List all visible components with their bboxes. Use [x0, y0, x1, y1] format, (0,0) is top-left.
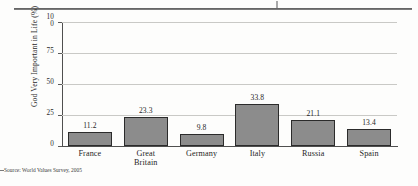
x-axis-category-label: Germany — [174, 149, 230, 158]
x-axis-category-label-line: Germany — [174, 149, 230, 158]
bar — [68, 132, 112, 146]
x-axis-category-label: GreatBritain — [118, 149, 174, 168]
gridline — [62, 115, 397, 116]
y-tick-label: 0 — [28, 141, 54, 148]
gridline — [62, 22, 397, 23]
y-tick-label-line: 50 — [28, 79, 54, 86]
bar — [291, 120, 335, 146]
figure-page: God Very Important in Life (%) 025507510… — [0, 0, 418, 186]
bar-value-label: 23.3 — [126, 106, 166, 115]
y-tick-label-line: 75 — [28, 48, 54, 55]
plot-area — [62, 22, 397, 146]
y-tick-label-line: 0 — [28, 21, 54, 28]
gridline — [62, 53, 397, 54]
x-axis-category-label-line: Italy — [229, 149, 285, 158]
bar-value-label: 33.8 — [237, 93, 277, 102]
x-axis-category-label: France — [62, 149, 118, 158]
x-axis-category-label-line: Russia — [285, 149, 341, 158]
bar-value-label: 9.8 — [182, 123, 222, 132]
y-tick-label: 50 — [28, 79, 54, 86]
x-axis-category-label-line: Britain — [118, 158, 174, 167]
bar-value-label: 11.2 — [70, 121, 110, 130]
x-axis-category-label-line: Great — [118, 149, 174, 158]
y-tick-label: 75 — [28, 48, 54, 55]
bar-chart: God Very Important in Life (%) 025507510… — [0, 0, 418, 186]
source-note: Source: World Values Survey, 2005 — [4, 167, 82, 174]
x-axis-category-label-line: France — [62, 149, 118, 158]
bar — [235, 104, 279, 146]
x-axis-line — [62, 146, 398, 147]
x-axis-category-label: Italy — [229, 149, 285, 158]
bar-value-label: 21.1 — [293, 109, 333, 118]
y-tick-label-line: 25 — [28, 110, 54, 117]
bar-value-label: 13.4 — [349, 118, 389, 127]
gridline — [62, 84, 397, 85]
bar — [180, 134, 224, 146]
bar — [124, 117, 168, 146]
x-axis-category-label-line: Spain — [341, 149, 397, 158]
y-tick-label: 25 — [28, 110, 54, 117]
y-tick-label-line: 0 — [28, 141, 54, 148]
y-tick-label: 100 — [28, 14, 54, 29]
x-axis-category-label: Russia — [285, 149, 341, 158]
x-axis-category-label: Spain — [341, 149, 397, 158]
bar — [347, 129, 391, 146]
